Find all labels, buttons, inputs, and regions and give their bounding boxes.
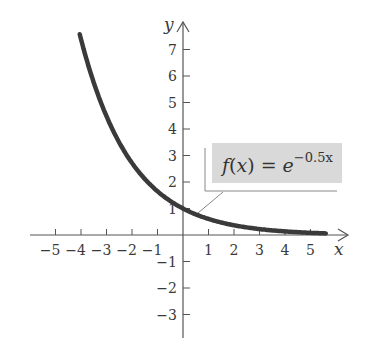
y-tick-label: −2: [156, 280, 177, 296]
y-tick-label: −1: [156, 254, 177, 270]
y-tick-label: 4: [168, 121, 177, 137]
x-axis-label: x: [334, 239, 344, 259]
x-tick-label: −5: [40, 242, 61, 258]
y-tick-label: 7: [168, 42, 177, 58]
y-tick-label: 6: [168, 68, 177, 84]
y-tick-label: 5: [168, 95, 177, 111]
y-tick-label: 3: [168, 148, 177, 164]
exponential-chart: −5−4−3−2−112345 −3−2−11234567 x y f(x) =…: [0, 0, 366, 357]
x-tick-label: 4: [281, 242, 290, 258]
x-tick-label: −4: [65, 242, 86, 258]
function-label: f(x) = e−0.5x: [198, 143, 342, 213]
y-tick-label: −3: [156, 307, 177, 323]
x-tick-label: 3: [255, 242, 264, 258]
formula-exponent: −0.5x: [294, 150, 334, 165]
y-axis-label: y: [163, 14, 174, 34]
x-tick-label: −3: [91, 242, 112, 258]
y-ticks: −3−2−11234567: [156, 42, 190, 323]
x-tick-label: 1: [204, 242, 213, 258]
x-tick-label: −2: [116, 242, 137, 258]
label-leader-line: [198, 192, 223, 213]
x-ticks: −5−4−3−2−112345: [40, 229, 315, 258]
x-tick-label: 2: [230, 242, 239, 258]
function-curve: [80, 34, 326, 233]
y-tick-label: 2: [168, 174, 177, 190]
x-tick-label: 5: [306, 242, 315, 258]
